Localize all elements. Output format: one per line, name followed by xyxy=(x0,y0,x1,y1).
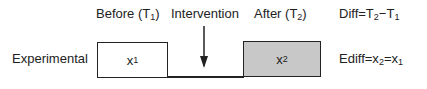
row-label-experimental: Experimental xyxy=(12,51,88,66)
header-before: Before (T1) xyxy=(96,6,160,22)
header-diff: Diff=T2−T1 xyxy=(339,6,399,22)
diff-text: Diff=T xyxy=(339,6,374,21)
box-after: x2 xyxy=(243,41,321,77)
ediff-text: Ediff=x xyxy=(339,51,379,66)
header-intervention: Intervention xyxy=(171,6,239,21)
header-before-text: Before (T xyxy=(96,6,150,21)
ediff-sub1: 1 xyxy=(398,57,403,67)
ediff-formula: Ediff=x2=x1 xyxy=(339,51,403,67)
ediff-eq: =x xyxy=(384,51,398,66)
box-before: x1 xyxy=(97,42,168,78)
paren: ) xyxy=(155,6,159,21)
header-after-text: After (T xyxy=(254,6,297,21)
box-after-sub: 2 xyxy=(283,54,288,64)
diff-sub1: 1 xyxy=(394,12,399,22)
header-after: After (T2) xyxy=(254,6,307,22)
box-before-sub: 1 xyxy=(133,55,138,65)
diff-minus: −T xyxy=(379,6,395,21)
paren: ) xyxy=(302,6,306,21)
timeline-line xyxy=(167,76,244,78)
arrow-down-icon xyxy=(198,26,210,70)
